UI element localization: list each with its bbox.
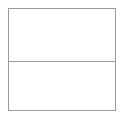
- table-cell-top: [9, 9, 115, 61]
- table-row: [9, 9, 115, 62]
- empty-two-row-table: [8, 8, 116, 111]
- table-row: [9, 62, 115, 110]
- screenshot-canvas: [0, 0, 126, 119]
- table-cell-bottom: [9, 62, 115, 110]
